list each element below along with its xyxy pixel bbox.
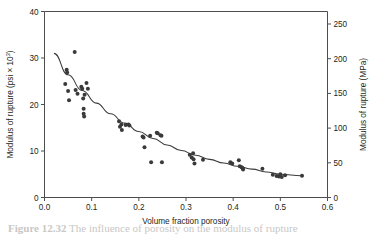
y-tick-right-label: 50 — [334, 159, 344, 168]
data-point — [86, 87, 90, 91]
y-axis-left-title-main: Modulus of rupture (psi × 10 — [6, 56, 15, 159]
data-point — [230, 162, 234, 166]
x-tick-label: 0.6 — [322, 203, 334, 212]
data-point — [300, 174, 304, 178]
data-point — [82, 107, 86, 111]
data-point — [191, 151, 195, 155]
y-tick-left-label: 10 — [29, 147, 39, 156]
data-point — [142, 145, 146, 149]
fit-curve — [54, 53, 302, 175]
y-axis-left-title: Modulus of rupture (psi × 103) — [5, 50, 15, 158]
data-point — [241, 168, 245, 172]
x-tick-label: 0.1 — [86, 203, 98, 212]
fit-curve-path — [54, 53, 302, 175]
data-point — [192, 162, 196, 166]
y-tick-right-label: 0 — [334, 194, 339, 203]
data-point — [148, 134, 152, 138]
y-axis-left-title-tail: ) — [6, 50, 15, 53]
y-tick-left-label: 0 — [34, 194, 39, 203]
data-point — [83, 93, 87, 97]
data-point — [192, 157, 196, 161]
data-point — [142, 136, 146, 140]
data-point — [80, 87, 84, 91]
y-axis-right-title: Modulus of rupture (MPa) — [359, 58, 368, 151]
x-axis-ticks: 0.00.10.20.30.40.50.6 — [39, 198, 334, 213]
scatter-chart: 0.00.10.20.30.40.50.6 010203040 05010015… — [0, 0, 372, 235]
x-tick-label: 0.5 — [275, 203, 287, 212]
data-point — [66, 89, 70, 93]
data-point — [283, 173, 287, 177]
data-point — [74, 88, 78, 92]
x-tick-label: 0.2 — [133, 203, 145, 212]
y-tick-right-label: 200 — [334, 55, 348, 64]
data-point — [159, 134, 163, 138]
y-tick-left-label: 20 — [29, 101, 39, 110]
plot-axes — [45, 12, 328, 198]
data-points — [63, 50, 304, 179]
data-point — [67, 98, 71, 102]
data-point — [127, 123, 131, 127]
data-point — [81, 96, 85, 100]
y-tick-right-label: 150 — [334, 89, 348, 98]
data-point — [237, 158, 241, 162]
figure-root: 0.00.10.20.30.40.50.6 010203040 05010015… — [0, 0, 372, 235]
data-point — [149, 160, 153, 164]
data-point — [82, 115, 86, 119]
data-point — [201, 158, 205, 162]
data-point — [117, 119, 121, 123]
y-tick-left-label: 40 — [29, 8, 39, 17]
data-point — [63, 82, 67, 86]
figure-caption-label: Figure 12.32 — [8, 222, 66, 234]
y-axis-left-ticks: 010203040 — [29, 8, 44, 203]
x-tick-label: 0.0 — [39, 203, 51, 212]
data-point — [76, 92, 80, 96]
data-point — [260, 167, 264, 171]
x-tick-label: 0.4 — [227, 203, 239, 212]
figure-caption-text: The influence of porosity on the modulus… — [69, 222, 298, 234]
x-tick-label: 0.3 — [180, 203, 192, 212]
data-point — [120, 128, 124, 132]
figure-caption: Figure 12.32 The influence of porosity o… — [8, 222, 368, 235]
data-point — [119, 123, 123, 127]
data-point — [160, 160, 164, 164]
data-point — [84, 81, 88, 85]
data-point — [73, 50, 77, 54]
y-tick-right-label: 250 — [334, 20, 348, 29]
data-point — [65, 70, 69, 74]
y-tick-left-label: 30 — [29, 54, 39, 63]
y-axis-right-ticks: 050100150200250 — [328, 20, 348, 203]
y-tick-right-label: 100 — [334, 124, 348, 133]
data-point — [271, 173, 275, 177]
